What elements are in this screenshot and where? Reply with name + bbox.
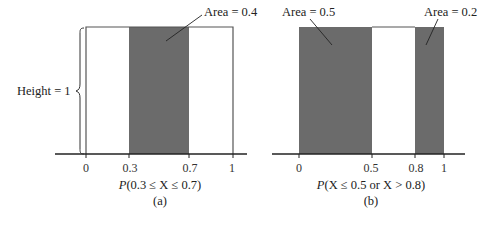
tick-label: 0.5 <box>364 161 379 175</box>
tick-label: 0.3 <box>123 161 138 175</box>
area-label-b-left: Area = 0.5 <box>282 5 335 19</box>
tick-label: 1 <box>229 161 235 175</box>
tick-label: 0 <box>296 161 302 175</box>
area-label-a: Area = 0.4 <box>204 5 258 19</box>
height-brace <box>76 28 84 154</box>
probability-formula-a: P(0.3 ≤ X ≤ 0.7) <box>118 178 201 192</box>
area-label-b-right: Area = 0.2 <box>424 5 477 19</box>
shaded-region-b-right <box>415 27 444 154</box>
tick-label: 0.8 <box>409 161 424 175</box>
height-label: Height = 1 <box>17 84 71 98</box>
shaded-region-a <box>129 27 189 154</box>
uniform-distribution-figure: Height = 1 Area = 0.4 0 0.3 0.7 1 P(0.3 … <box>0 0 487 226</box>
probability-formula-b: P(X ≤ 0.5 or X > 0.8) <box>316 178 425 192</box>
shaded-region-b-left <box>299 27 372 154</box>
caption-b: (b) <box>364 194 379 208</box>
tick-label: 0.7 <box>183 161 198 175</box>
panel-a: Height = 1 Area = 0.4 0 0.3 0.7 1 P(0.3 … <box>17 5 258 208</box>
panel-b: Area = 0.5 Area = 0.2 0 0.5 0.8 1 P(X ≤ … <box>272 5 477 208</box>
tick-label: 1 <box>441 161 447 175</box>
tick-label: 0 <box>83 161 89 175</box>
caption-a: (a) <box>153 194 167 208</box>
